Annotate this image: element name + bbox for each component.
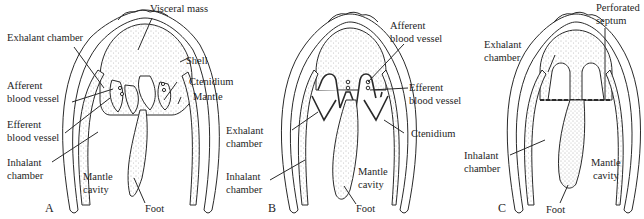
panel-c — [507, 12, 640, 213]
label-inhalant-b-2: chamber — [226, 184, 262, 196]
label-shell-a: Shell — [186, 55, 208, 67]
label-efferent-a-1: Efferent — [7, 119, 41, 131]
label-exhalant-b-2: chamber — [226, 138, 262, 150]
label-efferent-a-2: blood vessel — [7, 132, 59, 144]
label-inhalant-a-2: chamber — [7, 170, 43, 182]
label-foot-a: Foot — [145, 203, 164, 215]
label-ctenidium-a: Ctenidium — [189, 76, 233, 88]
label-foot-b: Foot — [356, 203, 375, 215]
label-efferent-b-2: blood vessel — [409, 95, 461, 107]
label-inhalant-a-1: Inhalant — [7, 157, 41, 169]
label-mantle-cavity-b-1: Mantle — [358, 166, 388, 178]
label-mantle-cavity-a-1: Mantle — [83, 171, 113, 183]
foot-a — [128, 110, 147, 196]
label-inhalant-c-1: Inhalant — [464, 150, 498, 162]
label-foot-c: Foot — [546, 204, 565, 216]
label-efferent-b-1: Efferent — [409, 82, 443, 94]
label-exhalant-c-1: Exhalant — [484, 39, 521, 51]
label-inhalant-b-1: Inhalant — [226, 171, 260, 183]
label-inhalant-c-2: chamber — [464, 163, 500, 175]
label-exhalant-chamber-a: Exhalant chamber — [7, 32, 83, 44]
label-afferent-a-1: Afferent — [7, 80, 42, 92]
label-mantle-cavity-c-2: cavity — [593, 170, 619, 182]
label-mantle-cavity-c-1: Mantle — [591, 157, 621, 169]
panel-letter-a: A — [45, 201, 54, 216]
label-perforated-c-2: septum — [596, 15, 626, 27]
label-exhalant-b-1: Exhalant — [226, 125, 263, 137]
label-mantle-a: Mantle — [193, 91, 223, 103]
label-exhalant-c-2: chamber — [484, 52, 520, 64]
label-ctenidium-b: Ctenidium — [411, 128, 455, 140]
label-afferent-b-2: blood vessel — [390, 33, 442, 45]
label-afferent-b-1: Afferent — [390, 20, 425, 32]
label-mantle-cavity-b-2: cavity — [358, 179, 384, 191]
label-afferent-a-2: blood vessel — [7, 93, 59, 105]
label-mantle-cavity-a-2: cavity — [83, 184, 109, 196]
label-perforated-c-1: Perforated — [596, 2, 640, 14]
panel-letter-b: B — [268, 201, 276, 216]
label-visceral-mass-a: Visceral mass — [150, 3, 208, 15]
panel-letter-c: C — [498, 201, 506, 216]
